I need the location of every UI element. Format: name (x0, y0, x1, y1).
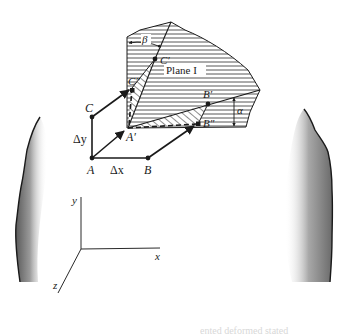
label-b: B (144, 163, 152, 177)
z-axis (58, 249, 81, 293)
right-body-section (285, 109, 333, 282)
cropped-caption-text: ented deformed stated (200, 326, 346, 336)
x-axis (81, 248, 160, 249)
axis-label-y: y (71, 194, 77, 206)
plane-label: Plane I (166, 64, 197, 76)
axis-label-x: x (154, 250, 160, 262)
label-b-double-prime: B″ (203, 117, 215, 129)
label-c-double-prime: C″ (128, 75, 140, 87)
point-b (146, 156, 151, 161)
point-b-double-prime (196, 122, 201, 127)
point-c-prime (153, 57, 158, 62)
label-dy: Δy (73, 132, 87, 146)
label-c: C (85, 101, 94, 115)
point-c (90, 115, 95, 120)
label-b-prime: B′ (203, 88, 213, 100)
beta-label: β (141, 33, 148, 45)
label-c-prime: C′ (160, 54, 170, 66)
alpha-label: α (237, 104, 243, 116)
label-dx: Δx (110, 163, 124, 177)
left-body-section (16, 117, 48, 282)
point-b-prime (206, 102, 211, 107)
strain-deformation-diagram: Plane I β (0, 0, 346, 336)
axis-label-z: z (52, 279, 58, 291)
coordinate-axes (58, 197, 160, 293)
point-c-double-prime (130, 88, 135, 93)
label-a-prime: A′ (125, 130, 136, 144)
label-a: A (86, 163, 95, 177)
point-a (90, 156, 95, 161)
